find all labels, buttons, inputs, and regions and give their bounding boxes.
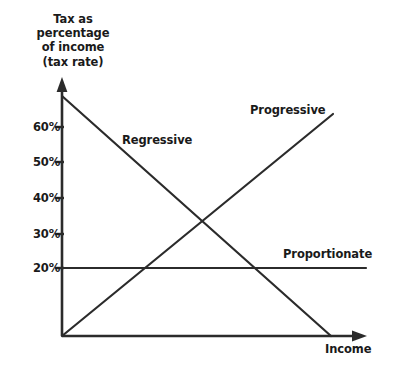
series-label-regressive: Regressive bbox=[122, 133, 192, 147]
series-label-progressive: Progressive bbox=[250, 103, 326, 117]
series-line-regressive bbox=[62, 96, 331, 336]
y-tick-label-50: 50% bbox=[20, 155, 60, 169]
y-tick-label-40: 40% bbox=[20, 191, 60, 205]
y-tick-label-30: 30% bbox=[20, 227, 60, 241]
series-label-proportionate: Proportionate bbox=[283, 247, 372, 261]
y-axis-title: Tax as percentage of income (tax rate) bbox=[24, 12, 122, 69]
x-axis-title: Income bbox=[325, 342, 371, 356]
tax-rate-chart: Tax as percentage of income (tax rate) 6… bbox=[0, 0, 395, 373]
y-tick-label-60: 60% bbox=[20, 120, 60, 134]
y-tick-label-20: 20% bbox=[20, 261, 60, 275]
y-axis bbox=[57, 77, 68, 336]
x-axis bbox=[62, 331, 367, 342]
